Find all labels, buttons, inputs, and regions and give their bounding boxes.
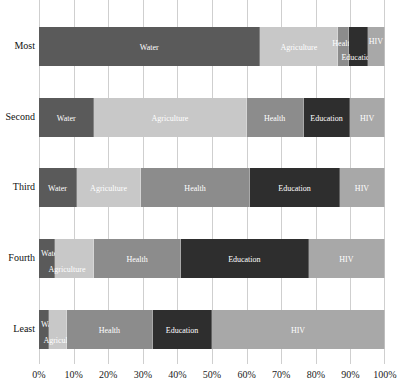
x-tick-label: 20% (99, 369, 117, 380)
segment-water: Water (39, 168, 77, 207)
bar-second: WaterAgricultureHealthEducationHIV (39, 98, 385, 137)
x-tick-label: 80% (307, 369, 325, 380)
segment-education: Education (250, 168, 340, 207)
segment-health: Health (67, 310, 154, 349)
segment-health: Health (141, 168, 250, 207)
segment-agriculture: Agriculture (94, 98, 246, 137)
segment-agriculture: Agriculture (77, 168, 141, 207)
segment-label: Health (264, 113, 285, 122)
x-tick-label: 100% (373, 369, 396, 380)
segment-label: Health (184, 183, 205, 192)
segment-label: Health (126, 254, 147, 263)
segment-label: Education (310, 113, 342, 122)
segment-education: Education (304, 98, 351, 137)
segment-label: Education (228, 254, 260, 263)
segment-label: HIV (339, 254, 353, 263)
segment-label: Education (166, 325, 198, 334)
segment-water: Water (39, 27, 260, 66)
x-tick-label: 30% (134, 369, 152, 380)
segment-hiv: HIV (309, 239, 385, 278)
segment-hiv: HIV (340, 168, 385, 207)
x-tick-label: 0% (32, 369, 45, 380)
x-tick-label: 60% (237, 369, 255, 380)
segment-label: Agriculture (90, 183, 127, 192)
segment-label: Water (57, 113, 76, 122)
stacked-bar-chart: WaterAgricultureHealthEducationHIVWaterA… (0, 0, 401, 387)
plot-area: WaterAgricultureHealthEducationHIVWaterA… (39, 0, 385, 364)
row-label: Second (6, 111, 35, 122)
segment-label: Water (140, 42, 159, 51)
segment-agriculture: Agriculture (260, 27, 338, 66)
segment-label: Health (99, 325, 120, 334)
row-label: Third (13, 181, 35, 192)
segment-health: Health (247, 98, 304, 137)
row-label: Fourth (8, 252, 35, 263)
x-tick-label: 50% (203, 369, 221, 380)
segment-hiv: HIV (368, 27, 385, 66)
segment-agriculture: Agriculture (55, 239, 95, 278)
segment-label: HIV (369, 36, 383, 45)
segment-label: Agriculture (152, 113, 189, 122)
bar-most: WaterAgricultureHealthEducationHIV (39, 27, 385, 66)
segment-label: Agriculture (280, 42, 317, 51)
segment-education: Education (181, 239, 309, 278)
segment-label: HIV (355, 183, 369, 192)
segment-hiv: HIV (212, 310, 385, 349)
x-tick-label: 40% (168, 369, 186, 380)
bar-third: WaterAgricultureHealthEducationHIV (39, 168, 385, 207)
x-tick-label: 70% (272, 369, 290, 380)
segment-label: HIV (360, 113, 374, 122)
segment-label: HIV (291, 325, 305, 334)
bar-least: WaterAgricultureHealthEducationHIV (39, 310, 385, 349)
x-tick-label: 90% (341, 369, 359, 380)
segment-agriculture: Agriculture (49, 310, 66, 349)
bar-fourth: WaterAgricultureHealthEducationHIV (39, 239, 385, 278)
segment-label: Education (278, 183, 310, 192)
segment-education: Education (349, 27, 368, 66)
segment-education: Education (153, 310, 212, 349)
row-label: Least (13, 323, 35, 334)
x-tick-label: 10% (64, 369, 82, 380)
row-label: Most (14, 40, 35, 51)
segment-health: Health (94, 239, 181, 278)
segment-label: Agriculture (49, 265, 86, 274)
segment-water: Water (39, 98, 94, 137)
segment-label: Water (48, 183, 67, 192)
segment-hiv: HIV (350, 98, 385, 137)
